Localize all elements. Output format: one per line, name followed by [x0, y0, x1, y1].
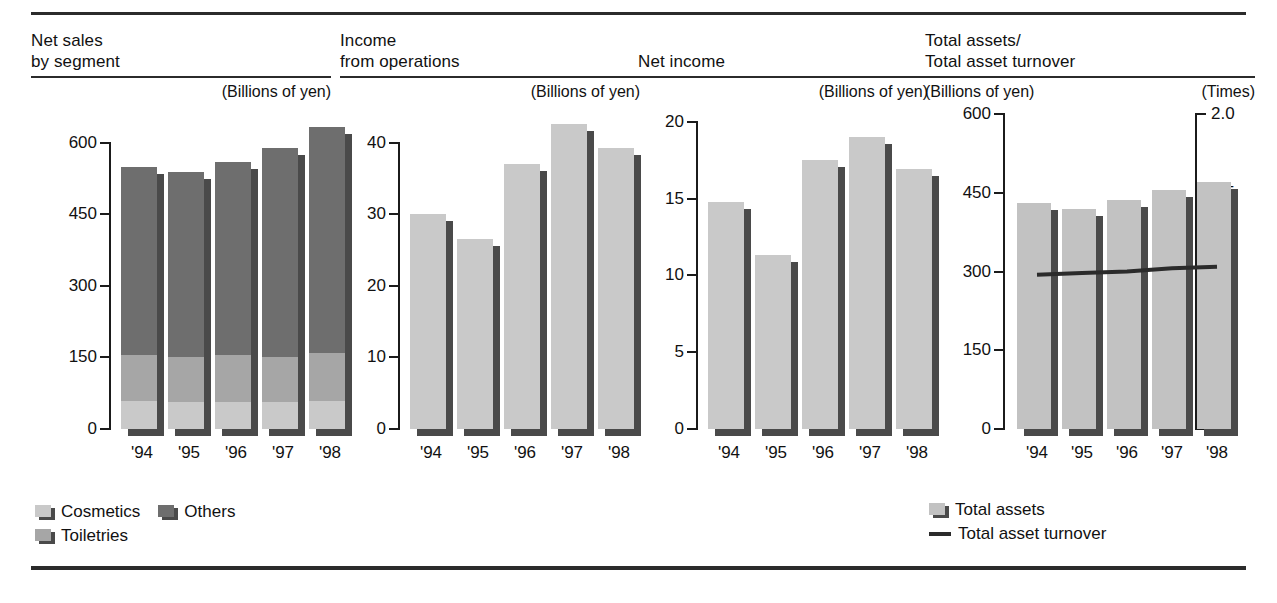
bottom-rule [31, 566, 1246, 570]
x-axis-label: '94 [131, 443, 153, 463]
legend-item[interactable]: Others [158, 502, 235, 522]
y-axis-tick [389, 142, 400, 144]
y-axis-tick [389, 213, 400, 215]
chart-bar[interactable] [708, 202, 744, 429]
bar-shadow-bottom [417, 429, 453, 436]
chart-plot-area: 010203040'94'95'96'97'98 [340, 114, 640, 444]
chart-bar[interactable] [849, 137, 885, 429]
x-axis-label: '96 [514, 443, 536, 463]
x-axis-label: '97 [859, 443, 881, 463]
chart-bar[interactable] [168, 172, 204, 429]
y-axis-tick-label: 20 [626, 112, 684, 132]
top-rule [31, 12, 1246, 15]
unit-label-right: (Billions of yen) [819, 83, 928, 102]
unit-row: (Billions of yen) [31, 78, 331, 102]
bar-shadow-right [157, 174, 164, 436]
bar-segment [755, 255, 791, 429]
panel-title: Total assets/ Total asset turnover [925, 30, 1255, 72]
bar-shadow-right [446, 221, 453, 436]
x-axis-label: '98 [608, 443, 630, 463]
unit-label-right: (Billions of yen) [222, 83, 331, 102]
x-axis-label: '94 [718, 443, 740, 463]
x-axis-label: '94 [420, 443, 442, 463]
panel-total-assets-turnover: Total assets/ Total asset turnover (Bill… [925, 30, 1255, 444]
legend-swatch [35, 505, 55, 520]
bar-segment [121, 355, 157, 402]
y-axis-tick-label: 150 [39, 347, 97, 367]
chart-bar[interactable] [504, 164, 540, 429]
bar-shadow-right [251, 169, 258, 436]
y-axis-tick-label: 5 [626, 342, 684, 362]
chart-plot-area: 05101520'94'95'96'97'98 [638, 114, 928, 444]
chart-bar[interactable] [802, 160, 838, 429]
y-axis-tick-label: 0 [328, 419, 386, 439]
legend-row: Total assets [929, 498, 1124, 522]
bar-shadow-bottom [762, 429, 798, 436]
chart-bar[interactable] [457, 239, 493, 429]
turnover-line-series [925, 114, 1255, 459]
chart-bar[interactable] [215, 162, 251, 429]
chart-plot-area: 015030045060000.51.01.52.0'94'95'96'97'9… [925, 114, 1255, 444]
legend-swatch [35, 529, 55, 544]
y-axis-tick-label: 30 [328, 204, 386, 224]
bar-segment [262, 148, 298, 357]
bar-shadow-bottom [128, 429, 164, 436]
legend-swatch [929, 503, 949, 518]
bar-shadow-bottom [809, 429, 845, 436]
legend-row: CosmeticsOthers [35, 500, 253, 524]
bar-segment [168, 357, 204, 402]
chart-bar[interactable] [262, 148, 298, 429]
chart-bar[interactable] [410, 214, 446, 429]
legend-item-label: Total asset turnover [958, 524, 1106, 544]
chart-legend: CosmeticsOthersToiletries [35, 500, 253, 548]
bar-segment [215, 162, 251, 355]
legend-item[interactable]: Cosmetics [35, 502, 140, 522]
y-axis-tick-label: 300 [39, 276, 97, 296]
bar-shadow-bottom [715, 429, 751, 436]
x-axis-label: '95 [765, 443, 787, 463]
y-axis-tick [687, 428, 698, 430]
legend-line-swatch [929, 532, 951, 536]
bar-segment [215, 402, 251, 429]
y-axis-tick-label: 40 [328, 133, 386, 153]
bar-segment [551, 124, 587, 429]
bar-shadow-bottom [222, 429, 258, 436]
legend-item[interactable]: Total assets [929, 500, 1045, 520]
chart-bar[interactable] [755, 255, 791, 429]
bar-shadow-right [204, 179, 211, 436]
bar-shadow-bottom [856, 429, 892, 436]
bar-shadow-bottom [175, 429, 211, 436]
y-axis-tick-label: 10 [328, 347, 386, 367]
y-axis-tick-label: 0 [626, 419, 684, 439]
chart-legend: Total assetsTotal asset turnover [929, 498, 1124, 546]
panel-title: Net income [638, 30, 928, 72]
bar-segment [849, 137, 885, 429]
unit-label-right: (Billions of yen) [531, 83, 640, 102]
bar-shadow-right [298, 155, 305, 436]
bar-shadow-right [791, 262, 798, 436]
legend-item[interactable]: Total asset turnover [929, 524, 1106, 544]
y-axis-tick-label: 0 [39, 419, 97, 439]
y-axis-tick [687, 121, 698, 123]
y-axis-tick-label: 600 [39, 133, 97, 153]
panel-net-income: Net income (Billions of yen) 05101520'94… [638, 30, 928, 444]
bar-segment [457, 239, 493, 429]
x-axis-label: '98 [319, 443, 341, 463]
bar-shadow-right [744, 209, 751, 436]
x-axis-label: '96 [812, 443, 834, 463]
chart-bar[interactable] [551, 124, 587, 429]
bar-segment [504, 164, 540, 429]
y-axis-tick [389, 285, 400, 287]
unit-row: (Billions of yen) [340, 78, 640, 102]
legend-item-label: Total assets [955, 500, 1045, 520]
panel-title: Net sales by segment [31, 30, 331, 72]
legend-swatch [158, 505, 178, 520]
y-axis-tick [100, 285, 111, 287]
chart-plot-area: 0150300450600'94'95'96'97'98 [31, 114, 331, 444]
legend-item[interactable]: Toiletries [35, 526, 128, 546]
bar-segment [168, 402, 204, 429]
chart-bar[interactable] [121, 167, 157, 429]
bar-segment [802, 160, 838, 429]
legend-item-label: Cosmetics [61, 502, 140, 522]
bar-segment [708, 202, 744, 429]
